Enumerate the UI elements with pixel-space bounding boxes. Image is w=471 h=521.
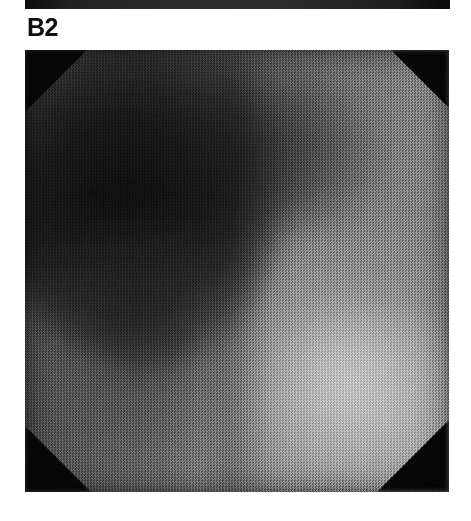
preceding-panel-bottom-edge [25, 0, 450, 9]
panel-label-b2: B2 [27, 13, 58, 42]
bright-lobe-lower-right [159, 252, 449, 492]
ghost-caption-artifact [142, 496, 342, 516]
figure-panel: B2 [0, 0, 471, 521]
grayscale-scan-image [25, 50, 449, 492]
